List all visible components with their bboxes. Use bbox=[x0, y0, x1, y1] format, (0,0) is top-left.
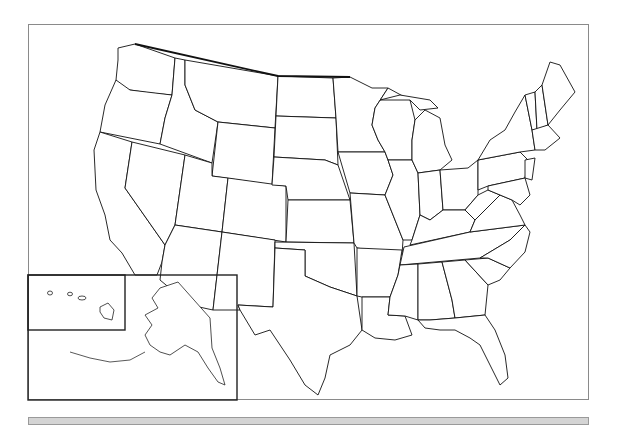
bottom-bar bbox=[28, 417, 589, 425]
state-southern-new-england bbox=[532, 125, 560, 150]
aleutian-islands bbox=[70, 352, 145, 362]
inset-box-hawaii bbox=[28, 275, 125, 330]
island-kauai bbox=[48, 291, 53, 295]
state-north-dakota bbox=[276, 76, 336, 118]
state-new-york bbox=[478, 95, 535, 160]
hawaii-islands bbox=[48, 291, 115, 320]
state-colorado bbox=[222, 178, 286, 242]
state-maine bbox=[542, 62, 575, 125]
state-new-mexico bbox=[213, 232, 275, 310]
state-florida bbox=[418, 315, 508, 385]
island-big-island bbox=[100, 303, 114, 320]
state-kansas bbox=[286, 200, 354, 243]
state-new-jersey bbox=[525, 158, 535, 180]
state-wyoming bbox=[212, 122, 275, 185]
island-oahu bbox=[68, 292, 73, 296]
island-maui-group bbox=[78, 296, 86, 300]
